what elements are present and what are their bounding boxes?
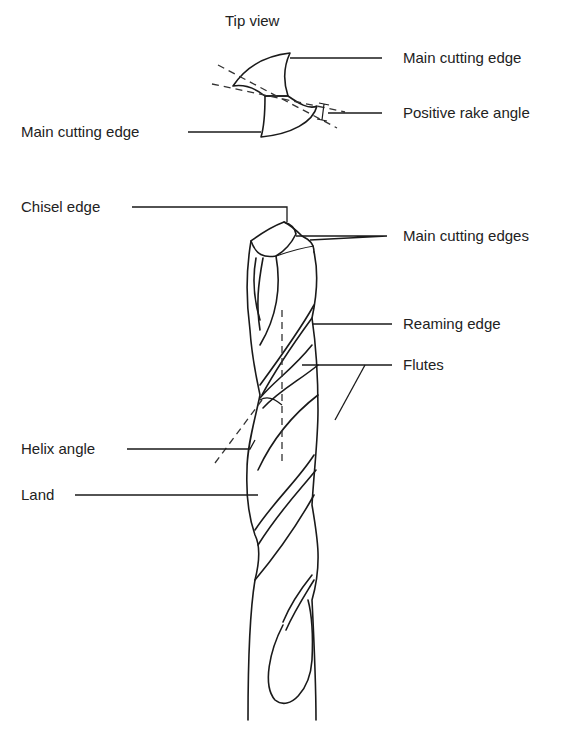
leader-helix-angle bbox=[127, 440, 255, 449]
label-helix-angle: Helix angle bbox=[21, 440, 95, 458]
leader-chisel-edge bbox=[132, 207, 287, 222]
label-reaming-edge: Reaming edge bbox=[403, 315, 501, 333]
label-main-cutting-edge-tip-left: Main cutting edge bbox=[21, 123, 139, 141]
label-main-cutting-edges: Main cutting edges bbox=[403, 227, 529, 245]
tip-view-title: Tip view bbox=[225, 12, 279, 30]
label-chisel-edge: Chisel edge bbox=[21, 198, 100, 216]
leader-main-cutting-edges bbox=[296, 236, 387, 240]
tip-view-drawing bbox=[212, 53, 345, 137]
label-land: Land bbox=[21, 486, 54, 504]
drill-body-drawing bbox=[215, 222, 318, 720]
label-flutes: Flutes bbox=[403, 356, 444, 374]
label-positive-rake-angle: Positive rake angle bbox=[403, 104, 530, 122]
label-main-cutting-edge-tip-right: Main cutting edge bbox=[403, 49, 521, 67]
leader-flutes-b bbox=[335, 365, 365, 420]
twist-drill-diagram: Tip view Main cutting edge Positive rake… bbox=[0, 0, 587, 735]
